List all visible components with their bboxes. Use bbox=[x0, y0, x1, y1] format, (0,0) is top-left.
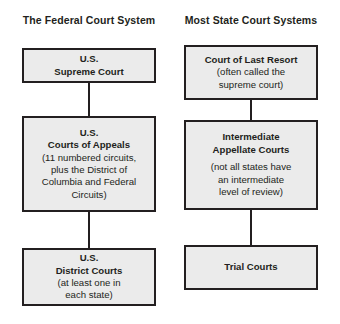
node-note: (at least one in each state) bbox=[58, 277, 121, 302]
node-title: Court of Last Resort bbox=[205, 54, 298, 66]
connector-appeals-to-district bbox=[88, 212, 90, 248]
column-heading-state: Most State Court Systems bbox=[184, 14, 318, 26]
node-intermediate-appellate-courts[interactable]: Intermediate Appellate Courts (not all s… bbox=[184, 120, 318, 210]
node-court-of-last-resort[interactable]: Court of Last Resort (often called the s… bbox=[184, 45, 318, 100]
connector-appellate-to-trial bbox=[250, 210, 252, 245]
node-title: Trial Courts bbox=[224, 261, 277, 273]
column-heading-federal: The Federal Court System bbox=[22, 14, 156, 26]
node-trial-courts[interactable]: Trial Courts bbox=[184, 245, 318, 290]
node-title: Intermediate Appellate Courts bbox=[213, 131, 290, 156]
node-title: U.S. Courts of Appeals bbox=[48, 127, 130, 152]
node-us-courts-of-appeals[interactable]: U.S. Courts of Appeals (11 numbered circ… bbox=[22, 116, 156, 212]
node-note: (often called the supreme court) bbox=[217, 66, 285, 91]
connector-supreme-to-appeals bbox=[88, 83, 90, 116]
node-note: (not all states have an intermediate lev… bbox=[211, 161, 292, 198]
node-title: U.S. Supreme Court bbox=[54, 53, 123, 78]
connector-last-resort-to-appellate bbox=[250, 100, 252, 120]
node-us-district-courts[interactable]: U.S. District Courts (at least one in ea… bbox=[22, 248, 156, 306]
node-title: U.S. District Courts bbox=[56, 252, 123, 277]
court-systems-diagram: The Federal Court System U.S. Supreme Co… bbox=[0, 0, 340, 324]
node-us-supreme-court[interactable]: U.S. Supreme Court bbox=[22, 48, 156, 83]
node-note: (11 numbered circuits, plus the District… bbox=[42, 152, 136, 202]
